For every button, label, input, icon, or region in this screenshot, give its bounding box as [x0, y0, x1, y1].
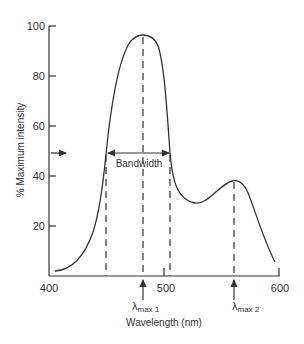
emission-spectrum-chart: 100 80 60 40 20 % Maximum intensity 400 …: [0, 0, 304, 344]
lambda-max-1-marker: λmax 1: [132, 280, 160, 314]
y-tick-60: 60: [33, 120, 45, 132]
x-tick-400: 400: [40, 282, 58, 294]
lambda-max-1-sub: max 1: [138, 305, 160, 314]
lambda-max-2-sub: max 2: [238, 305, 260, 314]
y-axis: 100 80 60 40 20 % Maximum intensity: [15, 20, 56, 276]
y-tick-100: 100: [27, 20, 45, 32]
x-axis: 400 500 600 Wavelength (nm): [40, 268, 289, 328]
svg-text:λmax 2: λmax 2: [232, 300, 260, 314]
x-axis-title: Wavelength (nm): [126, 317, 202, 328]
y-tick-40: 40: [33, 170, 45, 182]
x-tick-600: 600: [271, 282, 289, 294]
lambda-max-2-marker: λmax 2: [232, 280, 260, 314]
y-axis-title: % Maximum intensity: [15, 103, 26, 197]
bandwidth-label: Bandwidth: [116, 158, 163, 169]
y-tick-20: 20: [33, 220, 45, 232]
y-tick-80: 80: [33, 70, 45, 82]
x-tick-500: 500: [157, 282, 175, 294]
svg-text:λmax 1: λmax 1: [132, 300, 160, 314]
bandwidth-indicator: Bandwidth: [108, 153, 169, 169]
